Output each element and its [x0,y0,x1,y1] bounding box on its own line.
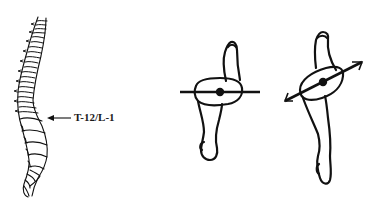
neutral-axis-bar [180,88,260,96]
figure-canvas [0,0,381,208]
level-pointer-arrow [47,115,71,121]
pelvis-neutral-illustration [195,42,242,160]
spine-illustration [14,17,47,197]
vertebral-level-label: T-12/L-1 [74,112,115,123]
pelvis-rotated-illustration [300,32,343,184]
